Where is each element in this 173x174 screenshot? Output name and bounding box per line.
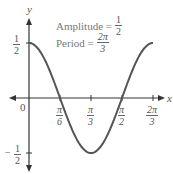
y-axis-up-arrow-icon	[26, 18, 32, 25]
x-tick-label-pi-2: π 2	[118, 105, 125, 127]
y-tick-label-neg-half: 1 2	[14, 144, 21, 166]
x-axis-label: x	[167, 93, 172, 104]
x-tick-label-pi-3: π 3	[87, 105, 94, 127]
period-value: 2π 3	[97, 32, 109, 54]
x-axis-right-arrow-icon	[158, 95, 165, 101]
amplitude-value: 1 2	[115, 15, 122, 37]
period-annotation: Period = 2π 3	[56, 32, 109, 54]
y-axis-label: y	[27, 4, 32, 15]
y-tick-label-half: 1 2	[13, 34, 20, 56]
y-tick-sign: −	[5, 148, 11, 158]
y-axis-down-arrow-icon	[26, 165, 32, 172]
origin-label: 0	[20, 102, 26, 113]
x-tick-label-2pi-3: 2π 3	[146, 105, 158, 127]
x-axis-left-arrow-icon	[9, 95, 16, 101]
x-tick-label-pi-6: π 6	[56, 105, 63, 127]
